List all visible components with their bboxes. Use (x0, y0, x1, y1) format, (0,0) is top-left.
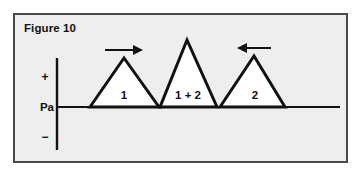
positive-sign-label: + (41, 70, 48, 84)
arrow-left-icon (237, 43, 271, 53)
arrow-right-icon (105, 45, 143, 55)
wave-diagram: + Pa − 1 1 + 2 2 (15, 15, 350, 165)
figure-frame: Figure 10 + Pa − 1 1 + 2 2 (13, 13, 348, 163)
pulse-sum-label: 1 + 2 (175, 89, 201, 101)
baseline-label: Pa (40, 101, 55, 113)
negative-sign-label: − (41, 130, 48, 144)
pulse-1-label: 1 (121, 89, 128, 101)
figure-container: Figure 10 + Pa − 1 1 + 2 2 (0, 0, 362, 175)
pulse-2-label: 2 (252, 89, 258, 101)
